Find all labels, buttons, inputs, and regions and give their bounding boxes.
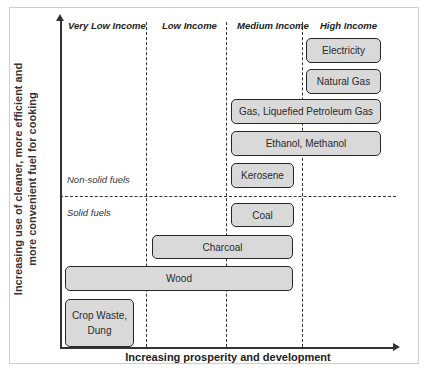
fuel-box-charcoal: Charcoal xyxy=(152,235,293,259)
x-axis xyxy=(60,347,396,349)
fuel-box-kerosene: Kerosene xyxy=(231,163,294,188)
fuel-label: Natural Gas xyxy=(317,74,370,89)
column-label-low-income: Low Income xyxy=(162,20,217,31)
fuel-label-line1: Crop Waste, xyxy=(72,308,127,323)
fuel-label: Electricity xyxy=(322,43,365,58)
fuel-label: Charcoal xyxy=(202,240,242,255)
y-axis-label-line1: Increasing use of cleaner, more efficien… xyxy=(11,29,25,329)
fuel-box-ethanol-methanol: Ethanol, Methanol xyxy=(231,131,381,156)
fuel-box-natural-gas: Natural Gas xyxy=(306,69,381,94)
column-label-medium-income: Medium Income xyxy=(237,20,309,31)
x-axis-label: Increasing prosperity and development xyxy=(60,351,396,363)
y-axis xyxy=(60,20,62,348)
fuel-label: Ethanol, Methanol xyxy=(266,136,347,151)
fuel-label: Kerosene xyxy=(241,168,284,183)
fuel-label-line2: Dung xyxy=(88,323,112,338)
y-axis-label: Increasing use of cleaner, more efficien… xyxy=(11,29,39,329)
fuel-box-crop-waste-dung: Crop Waste, Dung xyxy=(65,299,134,347)
divider-solid-nonsolid xyxy=(60,196,396,197)
y-axis-arrow-icon xyxy=(56,14,64,21)
fuel-label: Gas, Liquefied Petroleum Gas xyxy=(239,104,373,119)
zone-label-solid-fuels: Solid fuels xyxy=(67,207,111,218)
fuel-box-electricity: Electricity xyxy=(306,38,381,63)
fuel-box-lpg: Gas, Liquefied Petroleum Gas xyxy=(231,99,381,124)
fuel-label: Wood xyxy=(166,271,192,286)
divider-low-medium xyxy=(226,22,227,347)
column-label-high-income: High Income xyxy=(320,20,377,31)
fuel-label: Coal xyxy=(252,208,273,223)
column-label-very-low-income: Very Low Income xyxy=(68,20,146,31)
divider-medium-high xyxy=(302,22,303,347)
x-axis-arrow-icon xyxy=(393,343,400,351)
y-axis-label-line2: more convenient fuel for cooking xyxy=(25,29,39,329)
zone-label-non-solid-fuels: Non-solid fuels xyxy=(67,174,130,185)
fuel-box-wood: Wood xyxy=(65,266,293,291)
divider-very-low-low xyxy=(146,22,147,347)
fuel-box-coal: Coal xyxy=(231,203,294,227)
